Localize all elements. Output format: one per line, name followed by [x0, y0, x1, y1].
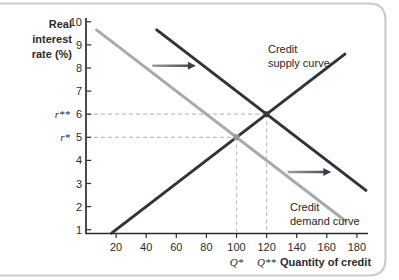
y-tick-label: 3 — [76, 178, 82, 190]
y-axis-title-line1: Real — [49, 18, 72, 30]
r-star-label: r* — [60, 131, 70, 143]
supply-curve-label-line2: supply curve — [268, 57, 330, 69]
y-tick-label: 2 — [76, 201, 82, 213]
x-tick-label: 20 — [110, 241, 122, 253]
x-axis-title: Quantity of credit — [280, 256, 371, 268]
x-tick-label: 60 — [170, 241, 182, 253]
demand-curve-label-line1: Credit — [290, 201, 319, 213]
right-arrow-icon — [188, 62, 196, 70]
equilibrium-dot-new — [264, 111, 270, 117]
q-star-label: Q* — [230, 256, 244, 268]
demand-curve-shifted — [157, 30, 366, 191]
r-double-star-label: r** — [55, 108, 71, 120]
x-tick-label: 100 — [227, 241, 245, 253]
right-arrow-icon — [323, 168, 331, 176]
equilibrium-dot-original — [234, 135, 240, 141]
x-tick-label: 40 — [140, 241, 152, 253]
credit-market-figure: 1234567891020406080100120140160180 Real … — [0, 0, 399, 280]
y-tick-label: 6 — [76, 108, 82, 120]
y-tick-label: 4 — [76, 154, 82, 166]
y-tick-label: 7 — [76, 85, 82, 97]
axes — [86, 18, 368, 234]
x-tick-label: 160 — [318, 241, 336, 253]
x-tick-label: 80 — [200, 241, 212, 253]
y-tick-label: 8 — [76, 62, 82, 74]
y-tick-label: 9 — [76, 39, 82, 51]
y-tick-label: 5 — [76, 131, 82, 143]
x-tick-label: 140 — [288, 241, 306, 253]
y-axis-title-line3: rate (%) — [32, 48, 73, 60]
supply-curve-label-line1: Credit — [268, 43, 297, 55]
q-double-star-label: Q** — [257, 256, 276, 268]
x-tick-label: 120 — [257, 241, 275, 253]
y-axis-title-line2: interest — [32, 33, 72, 45]
demand-curve-label-line2: demand curve — [290, 215, 360, 227]
y-tick-label: 1 — [76, 224, 82, 236]
x-tick-label: 180 — [348, 241, 366, 253]
